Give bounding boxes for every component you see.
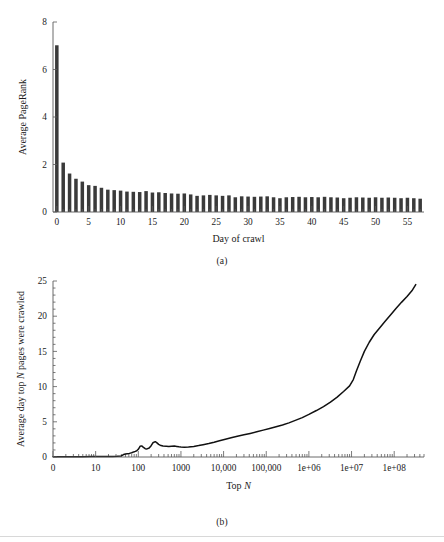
- chart-panel-a: 024680510152025303540455055Day of crawlA…: [0, 0, 444, 271]
- page-bottom-rule: [0, 536, 444, 537]
- y-tick-label: 4: [42, 112, 47, 122]
- x-tick-label: 1e+08: [383, 463, 407, 473]
- y-tick-label: 2: [42, 160, 47, 170]
- x-tick-label: 15: [148, 217, 158, 227]
- bar: [100, 188, 104, 212]
- x-axis-title-symbol: N: [243, 480, 252, 491]
- y-tick-label: 10: [38, 382, 48, 392]
- figure-page: 024680510152025303540455055Day of crawlA…: [0, 0, 444, 542]
- y-tick-label: 8: [42, 17, 47, 27]
- bar: [61, 163, 65, 212]
- y-axis-title-word: Average day top: [15, 379, 26, 447]
- y-tick-label: 15: [38, 347, 48, 357]
- y-axis-title-panel-a: Average PageRank: [17, 79, 28, 155]
- x-tick-label: 35: [275, 217, 285, 227]
- bar: [93, 186, 97, 212]
- x-tick-label: 5: [86, 217, 91, 227]
- bar: [68, 174, 72, 212]
- line-series-average-day-crawled: [53, 285, 416, 457]
- axes-panel-b: [53, 281, 424, 457]
- bar: [81, 182, 85, 212]
- x-axis-title-panel-b: Top N: [226, 480, 252, 491]
- bar: [132, 192, 136, 212]
- line-chart-average-day-top-n-crawled: 0510152025010100100010,000100,0001e+061e…: [0, 265, 444, 517]
- bar-series-average-pagerank: [55, 45, 422, 212]
- y-tick-label: 0: [42, 452, 47, 462]
- y-tick-label: 6: [42, 65, 47, 75]
- y-axis-ticks-panel-a: 02468: [42, 17, 57, 217]
- x-axis-title-word: Top: [226, 480, 244, 491]
- x-tick-label: 25: [212, 217, 222, 227]
- bar: [55, 45, 59, 212]
- y-tick-label: 5: [42, 417, 47, 427]
- x-tick-label: 10: [91, 463, 101, 473]
- x-tick-label: 45: [339, 217, 349, 227]
- x-tick-label: 0: [51, 463, 56, 473]
- bar: [125, 192, 129, 212]
- panel-b-caption: (b): [0, 517, 444, 527]
- x-tick-label: 55: [403, 217, 413, 227]
- bar: [144, 191, 148, 212]
- bar: [112, 190, 116, 212]
- x-tick-label: 1000: [172, 463, 191, 473]
- y-axis-title-word: pages were crawled: [15, 291, 26, 372]
- axes-panel-a: [53, 22, 424, 212]
- bar: [74, 179, 78, 212]
- y-tick-label: 25: [38, 276, 48, 286]
- x-tick-label: 0: [54, 217, 59, 227]
- x-tick-label: 10: [116, 217, 126, 227]
- x-axis-title-panel-a: Day of crawl: [212, 233, 264, 244]
- y-axis-title-panel-b: Average day top N pages were crawled: [15, 291, 26, 447]
- chart-panel-b: 0510152025010100100010,000100,0001e+061e…: [0, 265, 444, 542]
- x-tick-label: 100,000: [251, 463, 282, 473]
- x-tick-label: 1e+07: [340, 463, 364, 473]
- x-axis-ticks-panel-b: 010100100010,000100,0001e+061e+071e+08: [51, 451, 407, 473]
- x-tick-label: 10,000: [211, 463, 237, 473]
- x-tick-label: 1e+06: [297, 463, 321, 473]
- y-tick-label: 0: [42, 207, 47, 217]
- y-axis-ticks-panel-b: 0510152025: [38, 276, 57, 462]
- x-tick-label: 30: [243, 217, 253, 227]
- x-tick-label: 50: [371, 217, 381, 227]
- bar-chart-average-pagerank: 024680510152025303540455055Day of crawlA…: [0, 0, 444, 256]
- x-tick-label: 40: [307, 217, 317, 227]
- x-tick-label: 20: [180, 217, 190, 227]
- bar: [106, 190, 110, 212]
- y-tick-label: 20: [38, 311, 48, 321]
- x-tick-label: 100: [131, 463, 145, 473]
